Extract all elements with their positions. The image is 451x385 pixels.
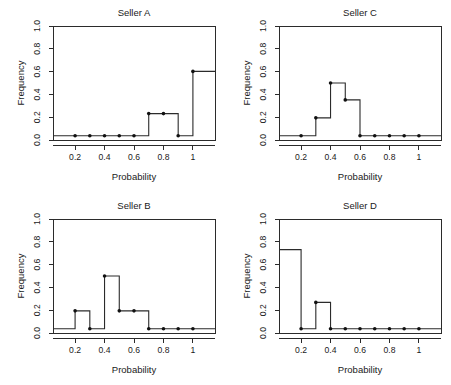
y-tick-label: 0.2 bbox=[258, 111, 268, 123]
data-point bbox=[132, 309, 136, 313]
x-tick-label: 1 bbox=[416, 345, 421, 355]
x-axis-title: Probability bbox=[337, 171, 382, 182]
panel-title: Seller C bbox=[343, 7, 377, 18]
y-tick-label: 0.6 bbox=[258, 65, 268, 77]
y-tick-label: 0.8 bbox=[258, 43, 268, 55]
y-tick-label: 0.4 bbox=[258, 281, 268, 293]
data-point bbox=[402, 326, 406, 330]
x-tick-label: 1 bbox=[416, 152, 421, 162]
y-tick-label: 0.0 bbox=[32, 326, 42, 338]
x-tick-label: 1 bbox=[191, 152, 196, 162]
x-tick-label: 0.2 bbox=[69, 152, 81, 162]
data-point bbox=[358, 134, 362, 138]
y-tick-label: 0.8 bbox=[32, 43, 42, 55]
step-curve bbox=[53, 276, 215, 329]
data-point bbox=[103, 274, 107, 278]
x-tick-label: 0.6 bbox=[354, 345, 366, 355]
panel-seller-d: Seller D 0.0 0.2 0.4 0.6 0.8 1.0 Frequen… bbox=[226, 193, 451, 385]
y-tick-label: 1.0 bbox=[258, 212, 268, 224]
data-point bbox=[162, 326, 166, 330]
data-point bbox=[176, 326, 180, 330]
data-point bbox=[358, 326, 362, 330]
data-point bbox=[191, 326, 195, 330]
data-point-group bbox=[73, 274, 194, 330]
x-tick-label: 1 bbox=[191, 345, 196, 355]
y-tick-label: 0.2 bbox=[32, 304, 42, 316]
y-tick-label: 0.6 bbox=[32, 65, 42, 77]
chart-seller-a: Seller A 0.0 0.2 0.4 0.6 0.8 1.0 Frequen… bbox=[0, 0, 226, 193]
x-axis-title: Probability bbox=[337, 364, 382, 375]
x-axis: 0.2 0.4 0.6 0.8 1 Probability bbox=[279, 145, 441, 182]
data-point bbox=[299, 134, 303, 138]
step-curve bbox=[53, 71, 215, 135]
x-axis: 0.2 0.4 0.6 0.8 1 Probability bbox=[53, 338, 215, 375]
x-tick-label: 0.8 bbox=[158, 345, 170, 355]
step-curve bbox=[279, 249, 441, 328]
x-axis: 0.2 0.4 0.6 0.8 1 Probability bbox=[279, 338, 441, 375]
data-point bbox=[147, 112, 151, 116]
data-point bbox=[147, 326, 151, 330]
x-tick-label: 0.8 bbox=[383, 152, 395, 162]
data-point bbox=[417, 326, 421, 330]
x-tick-label: 0.4 bbox=[324, 345, 336, 355]
x-tick-label: 0.4 bbox=[99, 152, 111, 162]
panel-title: Seller A bbox=[118, 7, 151, 18]
y-tick-label: 0.6 bbox=[258, 258, 268, 270]
chart-seller-b: Seller B 0.0 0.2 0.4 0.6 0.8 1.0 Frequen… bbox=[0, 193, 226, 385]
x-tick-label: 0.2 bbox=[295, 152, 307, 162]
data-point bbox=[328, 326, 332, 330]
y-tick-label: 0.2 bbox=[258, 304, 268, 316]
y-axis: 0.0 0.2 0.4 0.6 0.8 1.0 Frequency bbox=[241, 212, 279, 338]
data-point bbox=[314, 116, 318, 120]
data-point bbox=[387, 326, 391, 330]
data-point bbox=[299, 326, 303, 330]
data-point bbox=[387, 134, 391, 138]
chart-seller-d: Seller D 0.0 0.2 0.4 0.6 0.8 1.0 Frequen… bbox=[226, 193, 451, 385]
multi-panel-figure: Seller A 0.0 0.2 0.4 0.6 0.8 1.0 Frequen… bbox=[0, 0, 451, 385]
y-axis: 0.0 0.2 0.4 0.6 0.8 1.0 Frequency bbox=[15, 20, 53, 146]
y-axis-title: Frequency bbox=[241, 253, 252, 298]
step-curve bbox=[279, 83, 441, 136]
data-point bbox=[343, 326, 347, 330]
y-tick-label: 0.0 bbox=[258, 134, 268, 146]
y-tick-label: 1.0 bbox=[32, 212, 42, 224]
data-point bbox=[372, 134, 376, 138]
data-point bbox=[73, 134, 77, 138]
data-point bbox=[328, 81, 332, 85]
data-point bbox=[103, 134, 107, 138]
y-tick-label: 0.8 bbox=[32, 235, 42, 247]
panel-seller-a: Seller A 0.0 0.2 0.4 0.6 0.8 1.0 Frequen… bbox=[0, 0, 226, 193]
data-point bbox=[73, 309, 77, 313]
y-tick-label: 0.4 bbox=[258, 88, 268, 100]
x-tick-label: 0.6 bbox=[128, 152, 140, 162]
data-point bbox=[132, 134, 136, 138]
y-tick-label: 1.0 bbox=[258, 20, 268, 32]
data-point bbox=[162, 112, 166, 116]
x-tick-label: 0.2 bbox=[69, 345, 81, 355]
data-point bbox=[117, 309, 121, 313]
data-point bbox=[88, 326, 92, 330]
panel-title: Seller D bbox=[343, 200, 377, 211]
y-tick-label: 0.6 bbox=[32, 258, 42, 270]
x-tick-label: 0.6 bbox=[354, 152, 366, 162]
y-tick-label: 0.0 bbox=[258, 326, 268, 338]
y-axis: 0.0 0.2 0.4 0.6 0.8 1.0 Frequency bbox=[241, 20, 279, 146]
panel-seller-c: Seller C 0.0 0.2 0.4 0.6 0.8 1.0 Frequen… bbox=[226, 0, 451, 193]
data-point bbox=[417, 134, 421, 138]
y-tick-label: 1.0 bbox=[32, 20, 42, 32]
y-tick-label: 0.4 bbox=[32, 281, 42, 293]
chart-seller-c: Seller C 0.0 0.2 0.4 0.6 0.8 1.0 Frequen… bbox=[226, 0, 451, 193]
y-axis-title: Frequency bbox=[241, 60, 252, 105]
x-tick-label: 0.6 bbox=[128, 345, 140, 355]
plot-frame bbox=[53, 26, 215, 140]
plot-frame bbox=[279, 219, 441, 333]
data-point bbox=[372, 326, 376, 330]
data-point bbox=[117, 134, 121, 138]
y-tick-label: 0.4 bbox=[32, 88, 42, 100]
data-point bbox=[88, 134, 92, 138]
data-point-group bbox=[299, 300, 420, 330]
x-axis-title: Probability bbox=[112, 364, 157, 375]
panel-title: Seller B bbox=[117, 200, 150, 211]
data-point bbox=[402, 134, 406, 138]
y-tick-label: 0.2 bbox=[32, 111, 42, 123]
